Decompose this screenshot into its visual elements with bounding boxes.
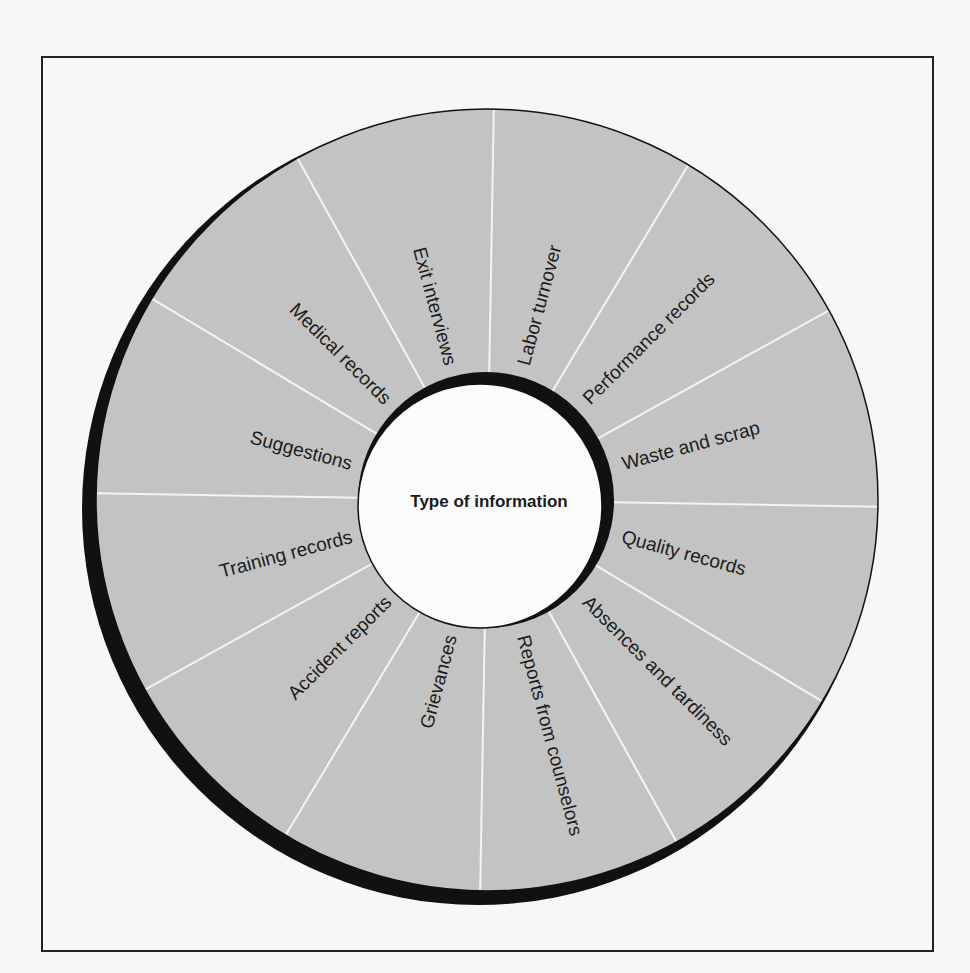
center-title: Type of information [410, 492, 567, 511]
information-wheel-diagram: Labor turnoverPerformance recordsWaste a… [0, 0, 970, 973]
